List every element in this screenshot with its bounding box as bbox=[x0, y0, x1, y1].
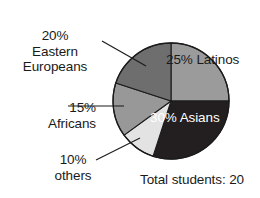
pie-label-others-name: others bbox=[42, 168, 104, 184]
pie-label-eastern-europeans-name-line2: Europeans bbox=[6, 59, 104, 75]
pie-chart-figure: 20% Eastern Europeans 15% Africans 10% o… bbox=[0, 0, 260, 198]
pie-label-others: 10% others bbox=[42, 152, 104, 183]
pie-label-latinos: 25% Latinos bbox=[166, 52, 239, 68]
pie-label-latinos-name: Latinos bbox=[196, 52, 239, 67]
pie-label-africans-name: Africans bbox=[8, 116, 96, 132]
total-students-caption: Total students: 20 bbox=[140, 172, 244, 187]
pie-label-africans: 15% Africans bbox=[8, 100, 96, 131]
pie-label-others-percent: 10% bbox=[42, 152, 104, 168]
pie-label-asians-percent: 30% bbox=[150, 110, 177, 125]
pie-label-africans-percent: 15% bbox=[8, 100, 96, 116]
pie-label-asians: 30% Asians bbox=[150, 110, 220, 126]
pie-label-eastern-europeans: 20% Eastern Europeans bbox=[6, 28, 104, 75]
pie-label-eastern-europeans-name-line1: Eastern bbox=[6, 44, 104, 60]
pie-label-asians-name: Asians bbox=[180, 110, 220, 125]
pie-label-eastern-europeans-percent: 20% bbox=[6, 28, 104, 44]
pie-label-latinos-percent: 25% bbox=[166, 52, 193, 67]
